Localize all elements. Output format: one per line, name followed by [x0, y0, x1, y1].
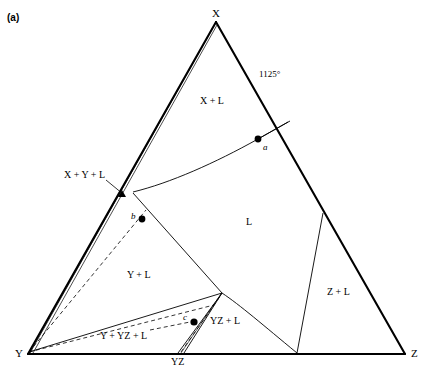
phase-field-label-liquid: L [246, 217, 252, 227]
phase-field-label-yz-plus-l: YZ + L [210, 316, 240, 326]
leader-y-yz-l-label [150, 322, 190, 330]
point-label-a: a [263, 143, 268, 152]
point-markers [118, 136, 261, 326]
ternary-triangle-outline [28, 22, 405, 354]
boundary-z-l [297, 213, 323, 353]
tieline-x-to-y-sliver [33, 25, 217, 353]
phase-field-label-x-plus-l: X + L [200, 96, 224, 106]
tieline-point-a [258, 122, 288, 139]
leader-x-y-l-label [106, 180, 123, 194]
phase-field-label-y-plus-l: Y + L [127, 270, 151, 280]
phase-field-label-y-yz-l: Y + YZ + L [100, 331, 147, 341]
liquidus-curve-x-l [133, 121, 290, 192]
panel-label: (a) [7, 13, 19, 23]
point-label-c: c [183, 313, 187, 322]
point-c-marker [190, 318, 197, 325]
ternary-phase-diagram-figure: (a) X Y Z 1125° X + L L Y + L Z + L YZ +… [0, 0, 428, 373]
vertex-label-x: X [212, 8, 220, 19]
vertex-label-y: Y [15, 348, 23, 359]
isotherm-label: 1125° [259, 70, 280, 79]
phase-field-label-x-y-l: X + Y + L [64, 170, 105, 180]
edge-x-z [216, 22, 405, 354]
point-b-marker [139, 216, 146, 223]
three-phase-boundary-x-y-l [30, 24, 217, 353]
compound-label-yz: YZ [171, 357, 184, 367]
point-a-marker [255, 136, 262, 143]
point-label-b: b [131, 212, 136, 221]
phase-field-label-z-plus-l: Z + L [327, 287, 350, 297]
vertex-label-z: Z [411, 348, 418, 359]
